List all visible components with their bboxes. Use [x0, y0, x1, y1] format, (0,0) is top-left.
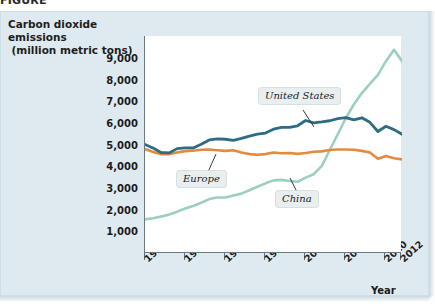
callout-china: China: [276, 191, 318, 207]
callout-united-states: United States: [259, 88, 340, 104]
callout-leader-lines: [0, 0, 435, 307]
figure-container: FIGURE Carbon dioxide emissions (million…: [0, 0, 435, 307]
callout-europe: Europe: [177, 171, 226, 187]
